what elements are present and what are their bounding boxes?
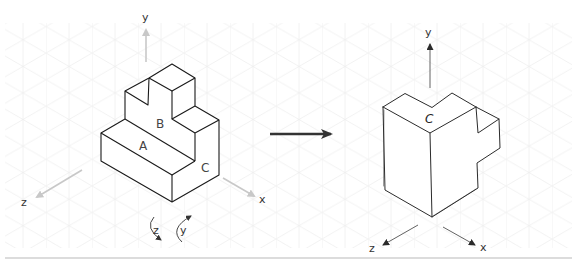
diagram-canvas: y z x B A C xyxy=(0,0,581,265)
x-axis-label: x xyxy=(480,241,487,254)
face-label-c: C xyxy=(201,161,209,175)
y-axis-label: y xyxy=(142,11,149,24)
y-axis-label: y xyxy=(425,26,432,39)
rotation-y-label: y xyxy=(180,224,187,237)
x-axis-label: x xyxy=(259,193,266,206)
face-label-a: A xyxy=(139,139,148,153)
z-axis-label: z xyxy=(369,242,375,255)
face-label-c: C xyxy=(425,112,434,126)
face-label-b: B xyxy=(156,117,164,131)
rotation-z-label: z xyxy=(153,224,159,237)
z-axis-label: z xyxy=(21,196,27,209)
